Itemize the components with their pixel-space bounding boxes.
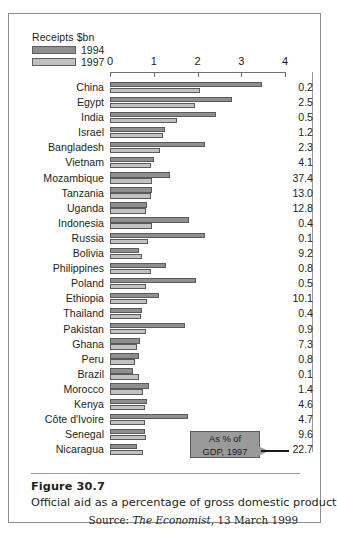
category-label: Ghana [0,338,104,350]
gdp-percent-value: 0.4 [271,217,313,229]
callout-leader-line [261,450,289,452]
bar-1997 [110,254,142,259]
bar-1994 [110,308,142,313]
bar-1997 [110,314,141,319]
gdp-percent-value: 37.4 [271,172,313,184]
x-axis-tick-label: 3 [229,55,253,67]
category-label: Peru [0,353,104,365]
bar-1994 [110,248,139,253]
gdp-percent-value: 13.0 [271,187,313,199]
bar-1994 [110,278,196,283]
bar-1994 [110,112,216,117]
bar-1994 [110,323,185,328]
category-label: Bolivia [0,247,104,259]
chart-row: Peru0.8 [9,352,322,367]
category-label: Senegal [0,428,104,440]
bar-1994 [110,414,188,419]
category-label: Ethiopia [0,292,104,304]
bar-1997 [110,284,146,289]
gdp-percent-value: 4.7 [271,413,313,425]
bar-1997 [110,269,151,274]
gdp-percent-value: 0.1 [271,232,313,244]
legend-swatch-1994 [32,46,76,54]
chart-row: Indonesia0.4 [9,216,322,231]
chart-row: Mozambique37.4 [9,171,322,186]
category-label: Israel [0,126,104,138]
gdp-percent-value: 12.8 [271,202,313,214]
bar-1997 [110,405,145,410]
bar-1997 [110,148,160,153]
bar-1994 [110,142,205,147]
bar-1997 [110,239,148,244]
bar-1997 [110,208,146,213]
source-prefix: Source: [89,514,133,526]
gdp-percent-value: 0.2 [271,81,313,93]
gdp-percent-value: 1.2 [271,126,313,138]
legend-item-1997: 1997 [32,57,152,67]
gdp-percent-value: 7.3 [271,338,313,350]
bar-1994 [110,202,147,207]
x-axis-tick-label: 2 [186,55,210,67]
category-label: Tanzania [0,187,104,199]
chart-row: Senegal9.6 [9,427,322,442]
chart-row: Pakistan0.9 [9,322,322,337]
category-label: Indonesia [0,217,104,229]
chart-row: Côte d'Ivoire4.7 [9,412,322,427]
bar-1997 [110,374,139,379]
bar-1997 [110,344,137,349]
category-label: Vietnam [0,156,104,168]
callout-line-1: As % of [191,433,259,446]
legend-swatch-1997 [32,58,76,66]
chart-row: Russia0.1 [9,231,322,246]
category-label: Brazil [0,368,104,380]
bar-1994 [110,157,154,162]
figure-source: Source: The Economist, 13 March 1999 [89,514,298,526]
bar-1997 [110,88,200,93]
bar-1997 [110,450,143,455]
x-axis-line [110,72,285,73]
chart-row: Poland0.5 [9,276,322,291]
bar-1994 [110,97,232,102]
category-label: Uganda [0,202,104,214]
bar-1994 [110,368,133,373]
gdp-percent-value: 0.8 [271,262,313,274]
figure-description: Official aid as a percentage of gross do… [31,496,337,509]
chart-row: Egypt2.5 [9,95,322,110]
figure-number: Figure 30.7 [31,480,105,493]
bar-1994 [110,127,165,132]
category-label: India [0,111,104,123]
bar-1994 [110,263,166,268]
x-axis-tick-label: 1 [142,55,166,67]
bar-1994 [110,383,149,388]
chart-row: India0.5 [9,110,322,125]
footer-divider [31,473,300,474]
category-label: Nicaragua [0,443,104,455]
bar-1997 [110,223,152,228]
category-label: Morocco [0,383,104,395]
chart-row: Ethiopia10.1 [9,291,322,306]
chart-row: Brazil0.1 [9,367,322,382]
category-label: Philippines [0,262,104,274]
chart-legend: Receipts $bn 1994 1997 [32,31,152,67]
category-label: Mozambique [0,172,104,184]
chart-row: Bolivia9.2 [9,246,322,261]
gdp-percent-value: 4.6 [271,398,313,410]
bar-1994 [110,338,140,343]
bar-1994 [110,233,205,238]
category-label: Russia [0,232,104,244]
chart-row: Vietnam4.1 [9,155,322,170]
chart-row: China0.2 [9,80,322,95]
x-axis-tick-label: 4 [273,55,297,67]
bar-1994 [110,399,147,404]
chart-row: Ghana7.3 [9,337,322,352]
gdp-percent-value: 2.5 [271,96,313,108]
bar-1994 [110,293,159,298]
source-suffix: , 13 March 1999 [211,514,298,526]
bar-1997 [110,178,152,183]
bar-1997 [110,103,195,108]
chart-row: Israel1.2 [9,125,322,140]
gdp-percent-value: 0.1 [271,368,313,380]
gdp-percent-value: 1.4 [271,383,313,395]
gdp-percent-value: 2.3 [271,141,313,153]
category-label: Poland [0,277,104,289]
